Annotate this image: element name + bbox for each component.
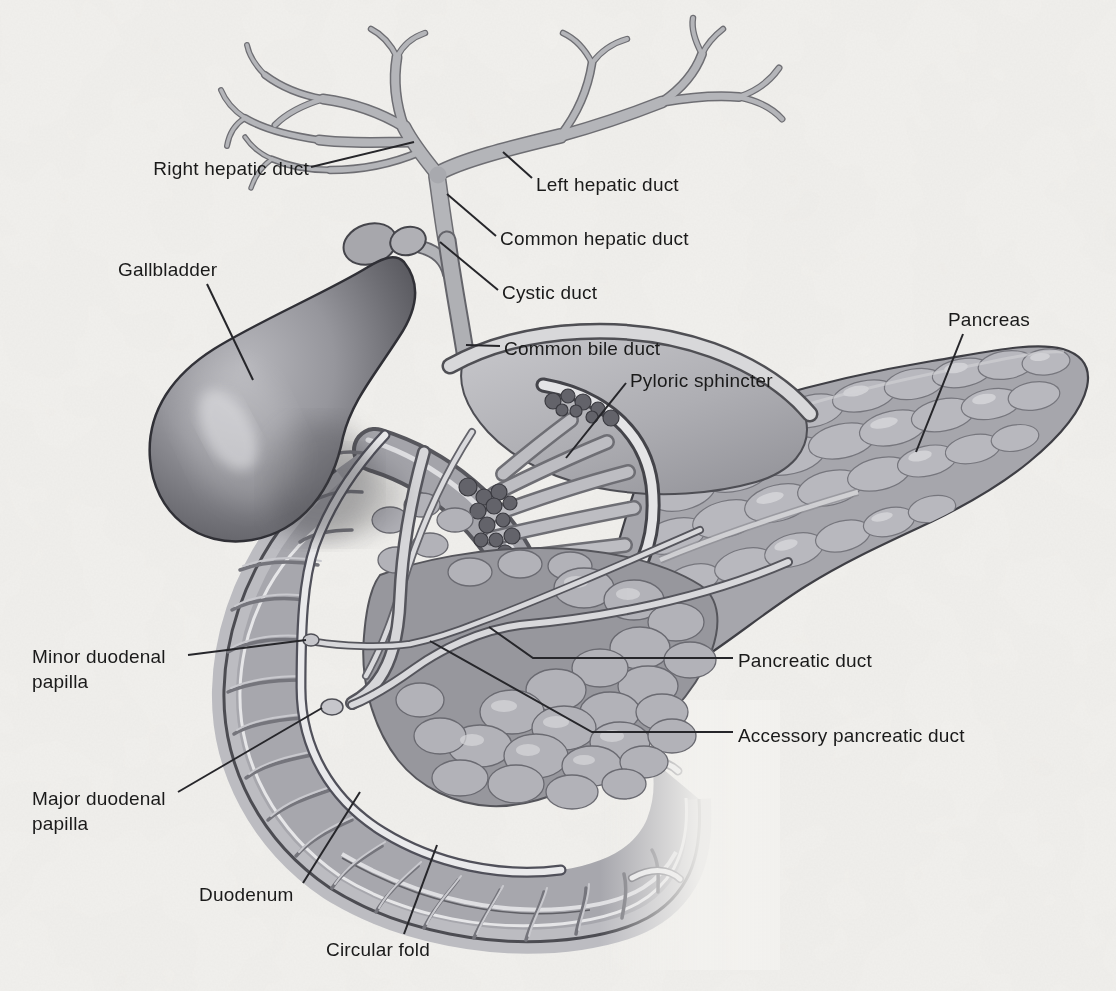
label-accessory-pancreatic-duct: Accessory pancreatic duct (738, 723, 965, 748)
label-right-hepatic-duct: Right hepatic duct (131, 156, 309, 181)
major-papilla-bump (321, 699, 343, 715)
label-pancreas: Pancreas (948, 307, 1030, 332)
leader-common-bile-duct (466, 345, 500, 346)
label-left-hepatic-duct: Left hepatic duct (536, 172, 679, 197)
textbook-figure-page: Right hepatic duct Left hepatic duct Com… (0, 0, 1116, 991)
label-cystic-duct: Cystic duct (502, 280, 597, 305)
label-common-bile-duct: Common bile duct (504, 336, 660, 361)
label-duodenum: Duodenum (199, 882, 294, 907)
label-pancreatic-duct: Pancreatic duct (738, 648, 872, 673)
label-gallbladder: Gallbladder (118, 257, 217, 282)
label-minor-duodenal-papilla: Minor duodenal papilla (32, 644, 190, 694)
anatomy-illustration (0, 0, 1116, 991)
label-pyloric-sphincter: Pyloric sphincter (630, 368, 773, 393)
label-common-hepatic-duct: Common hepatic duct (500, 226, 689, 251)
label-circular-fold: Circular fold (326, 937, 430, 962)
label-major-duodenal-papilla: Major duodenal papilla (32, 786, 190, 836)
duct-junction (430, 167, 447, 184)
